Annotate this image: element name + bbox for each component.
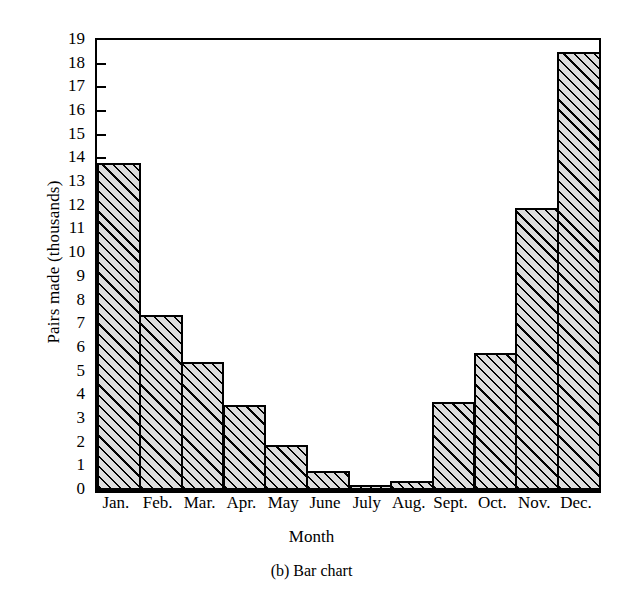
bar-chart-figure: Pairs made (thousands) 01234567891011121…	[0, 0, 641, 592]
y-axis-tick-label-12: 12	[51, 196, 85, 213]
y-axis-tick-label-4: 4	[51, 385, 85, 402]
y-axis-tick-label-0: 0	[51, 480, 85, 497]
y-axis-tick-label-9: 9	[51, 267, 85, 284]
bar-series	[97, 40, 599, 490]
y-axis-tick-label-17: 17	[51, 77, 85, 94]
x-axis-title: Month	[0, 527, 641, 547]
y-axis-tick-label-10: 10	[51, 243, 85, 260]
bar-dec	[557, 52, 601, 490]
y-axis-tick-label-16: 16	[51, 101, 85, 118]
y-axis-tick-label-14: 14	[51, 148, 85, 165]
y-axis-tick-label-8: 8	[51, 291, 85, 308]
x-axis-tick-label-dec: Dec.	[545, 494, 607, 511]
figure-caption-text: (b) Bar chart	[271, 562, 353, 579]
y-axis-tick-label-13: 13	[51, 172, 85, 189]
y-axis-tick-label-6: 6	[51, 338, 85, 355]
y-axis-tick-label-2: 2	[51, 433, 85, 450]
bar-jan	[97, 163, 141, 490]
bar-sept	[432, 402, 476, 490]
y-axis-tick-label-15: 15	[51, 125, 85, 142]
y-axis-tick-label-7: 7	[51, 314, 85, 331]
bar-mar	[181, 362, 225, 490]
figure-caption: (b) Bar chart	[0, 562, 641, 580]
y-axis-tick-label-18: 18	[51, 54, 85, 71]
bar-nov	[515, 208, 559, 490]
y-axis-tick-label-1: 1	[51, 456, 85, 473]
bar-june	[306, 471, 350, 490]
x-axis-title-text: Month	[289, 527, 334, 546]
bar-aug	[390, 481, 434, 490]
plot-area	[95, 38, 601, 493]
bar-apr	[223, 405, 267, 490]
y-axis-tick-label-19: 19	[51, 30, 85, 47]
bar-feb	[139, 315, 183, 490]
y-axis-tick-label-3: 3	[51, 409, 85, 426]
bar-may	[264, 445, 308, 490]
bar-oct	[474, 353, 518, 490]
y-axis-tick-label-5: 5	[51, 362, 85, 379]
bar-july	[348, 485, 392, 490]
y-axis-tick-label-11: 11	[51, 219, 85, 236]
